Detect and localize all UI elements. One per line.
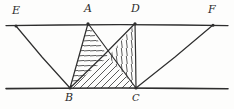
geometry-canvas: [0, 0, 234, 109]
vertex-dot-F: [212, 24, 215, 27]
vertex-label-F: F: [208, 4, 216, 15]
geometry-diagram: E A D F B C: [0, 0, 234, 109]
vertex-dot-A: [86, 22, 89, 25]
vertex-label-E: E: [12, 5, 20, 16]
vertex-label-B: B: [65, 92, 73, 103]
bottom-parallel-line: [6, 88, 228, 89]
vertex-label-A: A: [84, 3, 92, 14]
segment-FC: [136, 25, 213, 88]
vertex-dot-E: [15, 25, 18, 28]
vertex-dot-D: [133, 22, 136, 25]
segment-EB: [16, 26, 70, 88]
top-parallel-line: [6, 25, 228, 26]
vertex-label-D: D: [131, 3, 140, 14]
vertex-dot-C: [134, 86, 137, 89]
vertex-label-C: C: [132, 93, 140, 103]
vertex-dot-B: [68, 86, 71, 89]
